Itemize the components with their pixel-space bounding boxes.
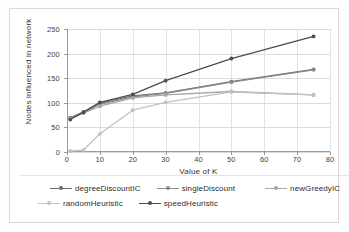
y-tick-label: 100	[47, 98, 60, 107]
data-point	[164, 79, 168, 83]
legend-label: degreeDiscountIC	[75, 184, 141, 193]
x-tick-label: 80	[326, 155, 335, 164]
x-axis-tick-labels: 01020304050607080	[67, 155, 330, 167]
gridline-vertical	[330, 29, 331, 152]
y-axis-tick	[64, 29, 67, 30]
legend-label: newGreedyIC	[290, 184, 340, 193]
data-point	[131, 96, 135, 100]
y-tick-label: 250	[47, 25, 60, 34]
legend-item-newGreedyIC[interactable]: newGreedyIC	[265, 184, 340, 193]
legend-item-speedHeuristic[interactable]: speedHeuristic	[139, 199, 218, 208]
y-tick-label: 50	[51, 123, 60, 132]
y-axis-tick	[64, 127, 67, 128]
legend-item-singleDiscount[interactable]: singleDiscount	[157, 184, 235, 193]
data-point	[98, 100, 102, 104]
legend-item-randomHeuristic[interactable]: randomHeuristic	[38, 199, 123, 208]
x-tick-label: 60	[260, 155, 269, 164]
data-point	[98, 104, 102, 108]
data-point	[312, 93, 316, 97]
data-point	[164, 93, 168, 97]
series-layer	[67, 29, 330, 152]
y-tick-label: 200	[47, 49, 60, 58]
data-point	[68, 118, 72, 122]
legend-marker-icon	[50, 184, 72, 193]
series-speedHeuristic	[68, 34, 315, 121]
chart-legend: degreeDiscountICsingleDiscountnewGreedyI…	[28, 181, 328, 211]
data-point	[131, 108, 135, 112]
legend-row-2: randomHeuristicspeedHeuristic	[28, 196, 328, 211]
data-point	[82, 110, 86, 114]
x-tick-label: 20	[128, 155, 137, 164]
series-line	[70, 91, 313, 118]
legend-marker-icon	[139, 199, 161, 208]
data-point	[229, 57, 233, 61]
y-tick-label: 150	[47, 74, 60, 83]
data-point	[312, 68, 316, 72]
series-randomHeuristic	[68, 90, 315, 153]
legend-label: singleDiscount	[182, 184, 235, 193]
data-point	[131, 93, 135, 97]
legend-row-1: degreeDiscountICsingleDiscountnewGreedyI…	[28, 181, 328, 196]
legend-item-degreeDiscountIC[interactable]: degreeDiscountIC	[50, 184, 141, 193]
x-tick-label: 70	[293, 155, 302, 164]
chart-frame: 050100150200250 Nodes influenced in netw…	[9, 8, 339, 223]
data-point	[164, 100, 168, 104]
data-point	[312, 34, 316, 38]
y-axis-tick	[64, 103, 67, 104]
legend-marker-icon	[38, 199, 60, 208]
y-axis-tick	[64, 78, 67, 79]
data-point	[229, 90, 233, 94]
x-tick-label: 0	[65, 155, 69, 164]
legend-marker-icon	[157, 184, 179, 193]
y-tick-label: 0	[56, 148, 60, 157]
plot-area	[67, 29, 330, 152]
y-axis-title: Nodes influenced in network	[24, 8, 33, 136]
data-point	[68, 149, 72, 153]
x-tick-label: 40	[194, 155, 203, 164]
legend-marker-icon	[265, 184, 287, 193]
data-point	[98, 132, 102, 136]
x-tick-label: 10	[96, 155, 105, 164]
legend-label: randomHeuristic	[63, 199, 123, 208]
y-axis-tick-labels: 050100150200250	[10, 29, 65, 152]
x-tick-label: 30	[161, 155, 170, 164]
legend-label: speedHeuristic	[164, 199, 218, 208]
data-point	[82, 148, 86, 152]
x-tick-label: 50	[227, 155, 236, 164]
legend-divider	[19, 175, 349, 176]
series-line	[70, 36, 313, 119]
data-point	[229, 80, 233, 84]
y-axis-tick	[64, 54, 67, 55]
